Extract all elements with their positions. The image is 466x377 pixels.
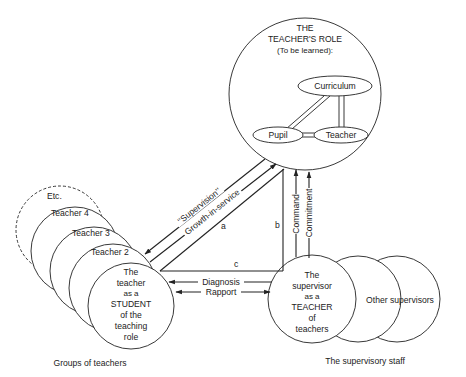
student-line-7: role — [124, 332, 139, 342]
student-line-2: teacher — [117, 278, 146, 288]
supervisor-line-3: as a — [304, 292, 320, 301]
supervisor-line-2: supervisor — [292, 281, 332, 291]
role-title-line-3: (To be learned): — [277, 46, 333, 55]
teacher-role-diagram: THE TEACHER'S ROLE (To be learned): Curr… — [0, 0, 466, 377]
label-b: b — [275, 220, 280, 230]
supervisor-line-5: of — [308, 313, 316, 323]
supervisor-line-6: teachers — [296, 324, 329, 334]
supervisor-group-caption: The supervisory staff — [325, 356, 405, 366]
other-supervisors-label: Other supervisors — [366, 295, 434, 305]
supervisor-line-4: TEACHER — [291, 302, 332, 312]
supervisor-group: The supervisor as a TEACHER of teachers … — [268, 255, 440, 366]
teachers-role-circle: THE TEACHER'S ROLE (To be learned): Curr… — [229, 18, 381, 170]
commitment-label: Commitment — [304, 188, 314, 237]
teacher-label: Teacher — [326, 130, 357, 140]
etc-label: Etc. — [47, 191, 62, 201]
teacher-4-label: Teacher 4 — [51, 208, 89, 218]
rapport-label: Rapport — [206, 287, 237, 297]
role-title-line-1: THE — [296, 23, 313, 33]
label-a: a — [221, 221, 226, 231]
teacher-group-caption: Groups of teachers — [53, 358, 126, 368]
curriculum-label: Curriculum — [314, 81, 356, 91]
student-line-5: of the — [120, 310, 142, 320]
student-line-6: teaching — [115, 321, 148, 331]
teacher-2-label: Teacher 2 — [91, 247, 129, 257]
pupil-label: Pupil — [268, 130, 287, 140]
teacher-3-label: Teacher 3 — [72, 228, 110, 238]
label-c: c — [234, 259, 239, 269]
diagnosis-label: Diagnosis — [202, 277, 240, 287]
role-title-line-2: TEACHER'S ROLE — [268, 34, 342, 44]
command-label: Command — [291, 194, 301, 234]
student-line-3: as a — [123, 289, 139, 298]
teacher-group: Etc. Teacher 4 Teacher 3 Teacher 2 The t… — [16, 186, 174, 368]
student-line-1: The — [124, 267, 139, 277]
student-line-4: STUDENT — [111, 299, 152, 309]
supervisor-line-1: The — [305, 270, 320, 280]
